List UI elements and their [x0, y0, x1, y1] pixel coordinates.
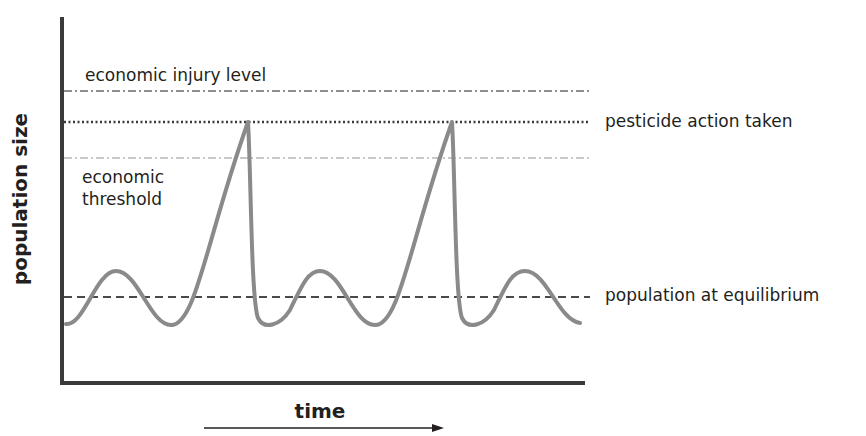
x-axis-label: time — [295, 399, 346, 423]
time-arrow-head-icon — [432, 424, 444, 432]
population-curve — [66, 122, 580, 325]
pesticide-action-label: pesticide action taken — [605, 111, 793, 131]
economic-threshold-label-line2: threshold — [82, 189, 162, 209]
y-axis-label: population size — [8, 113, 32, 285]
economic-threshold-label-line1: economic — [82, 167, 164, 187]
economic-injury-label: economic injury level — [85, 65, 266, 85]
equilibrium-label: population at equilibrium — [605, 285, 819, 305]
population-chart: economic injury level economic threshold… — [0, 0, 866, 436]
